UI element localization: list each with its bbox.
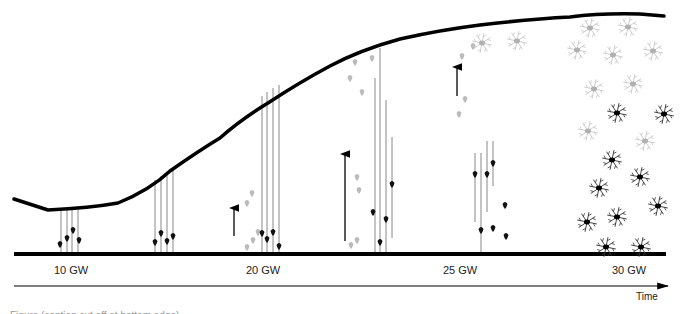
migrating-neuron-icon — [58, 241, 63, 248]
stellate-neuron-icon — [578, 121, 598, 141]
migrating-neuron-icon — [479, 227, 484, 234]
stellate-neuron-icon — [472, 33, 492, 53]
stellate-neuron-icon — [580, 18, 600, 38]
migrating-neuron-icon — [463, 96, 468, 103]
migrating-neuron-icon — [471, 43, 476, 50]
stellate-neuron-icon — [567, 40, 587, 60]
migrating-neuron-icon — [485, 171, 490, 178]
pial-surface-line — [14, 14, 664, 210]
migrating-neuron-icon — [348, 75, 353, 82]
stellate-neuron-icon — [643, 41, 663, 61]
stellate-neuron-icon — [623, 74, 643, 94]
migrating-neuron-icon — [260, 230, 265, 237]
migrating-neuron-icon — [357, 187, 362, 194]
migrating-neuron-icon — [245, 244, 250, 251]
migrating-neuron-icon — [370, 55, 375, 62]
cortical-development-diagram — [0, 0, 689, 314]
migrating-neuron-icon — [77, 237, 82, 244]
migrating-neuron-icon — [65, 235, 70, 242]
migrating-neuron-icon — [271, 229, 276, 236]
migrating-neuron-icon — [491, 160, 496, 167]
migrating-neuron-icon — [503, 202, 508, 209]
migrating-neuron-icon — [251, 237, 256, 244]
stellate-neuron-icon — [584, 79, 604, 99]
differentiated-neurons-light — [472, 17, 663, 151]
stage-label-30gw: 30 GW — [612, 264, 646, 276]
stellate-neuron-icon — [603, 45, 623, 65]
stellate-neuron-icon — [630, 167, 650, 187]
stage-label-10gw: 10 GW — [54, 264, 88, 276]
migrating-neuron-icon — [355, 174, 360, 181]
differentiated-neurons-dark — [577, 103, 674, 257]
migrating-neuron-icon — [355, 237, 360, 244]
migrating-neuron-icon — [250, 190, 255, 197]
migrating-neuron-icon — [457, 111, 462, 118]
migrating-neuron-icon — [384, 216, 389, 223]
stellate-neuron-icon — [507, 31, 527, 51]
stellate-neuron-icon — [577, 212, 597, 232]
migrating-neuron-icon — [159, 230, 164, 237]
stellate-neuron-icon — [654, 104, 674, 124]
migrating-neuron-icon — [473, 171, 478, 178]
stellate-neuron-icon — [602, 150, 622, 170]
migrating-neuron-icon — [265, 236, 270, 243]
migrating-neuron-icon — [277, 243, 282, 250]
migrating-neuron-icon — [504, 233, 509, 240]
radial-glial-fibers — [61, 48, 493, 254]
stellate-neuron-icon — [648, 196, 668, 216]
stellate-neuron-icon — [607, 207, 627, 227]
migrating-neuron-icon — [165, 238, 170, 245]
stellate-neuron-icon — [635, 131, 655, 151]
migrating-neuron-icon — [460, 53, 465, 60]
migrating-neuron-icon — [349, 242, 354, 249]
stellate-neuron-icon — [618, 17, 638, 37]
stage-label-20gw: 20 GW — [246, 264, 280, 276]
migrating-neuron-icon — [71, 227, 76, 234]
migrating-neuron-icon — [153, 239, 158, 246]
migrating-neuron-icon — [171, 233, 176, 240]
migrating-neuron-icon — [491, 225, 496, 232]
stellate-neuron-icon — [607, 103, 627, 123]
migrating-neuron-icon — [390, 181, 395, 188]
stage-label-25gw: 25 GW — [443, 264, 477, 276]
migrating-neuron-icon — [353, 59, 358, 66]
figure-caption: Figure (caption cut off at bottom edge) — [10, 309, 680, 314]
migrating-neuron-icon — [378, 239, 383, 246]
migrating-neurons-dark — [58, 160, 509, 250]
stellate-neuron-icon — [589, 178, 609, 198]
time-axis-label: Time — [636, 291, 658, 302]
migrating-neuron-icon — [245, 200, 250, 207]
migrating-neuron-icon — [360, 89, 365, 96]
